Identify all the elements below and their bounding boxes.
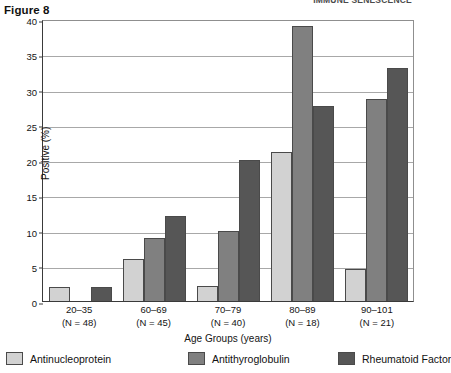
bar-groups — [43, 21, 413, 301]
x-axis-group-label: 70–79(N = 40) — [191, 303, 265, 329]
bar-group — [339, 21, 413, 301]
y-axis-tick-label: 5 — [32, 262, 43, 273]
x-axis-group-label: 20–35(N = 48) — [42, 303, 116, 329]
x-axis-sample-size: (N = 40) — [191, 316, 265, 329]
bar — [292, 26, 313, 301]
legend-label: Antithyroglobulin — [212, 353, 290, 365]
x-axis-title: Age Groups (years) — [42, 333, 414, 344]
x-axis-labels: 20–35(N = 48)60–69(N = 45)70–79(N = 40)8… — [42, 303, 414, 329]
legend-swatch — [6, 352, 23, 365]
bar — [197, 286, 218, 302]
legend-swatch — [338, 352, 355, 365]
bar — [239, 160, 260, 301]
x-axis-sample-size: (N = 18) — [265, 316, 339, 329]
plot-area: 0510152025303540 — [42, 20, 414, 302]
x-axis-range: 90–101 — [340, 303, 414, 316]
x-axis-group-label: 80–89(N = 18) — [265, 303, 339, 329]
x-axis-sample-size: (N = 21) — [340, 316, 414, 329]
x-axis-range: 80–89 — [265, 303, 339, 316]
legend: AntinucleoproteinAntithyroglobulinRheuma… — [6, 352, 418, 365]
bar-group — [265, 21, 339, 301]
legend-item: Antinucleoprotein — [6, 352, 188, 365]
bar — [271, 152, 292, 301]
bar — [123, 259, 144, 301]
legend-item: Antithyroglobulin — [188, 352, 338, 365]
figure-label: Figure 8 — [4, 4, 50, 16]
legend-swatch — [188, 352, 205, 365]
legend-item: Rheumatoid Factor — [338, 352, 418, 365]
x-axis-sample-size: (N = 48) — [42, 316, 116, 329]
bar — [144, 238, 165, 301]
chart-area: 0510152025303540 Positive (%) — [42, 20, 414, 302]
bar — [345, 269, 366, 301]
x-axis-sample-size: (N = 45) — [116, 316, 190, 329]
x-axis-range: 60–69 — [116, 303, 190, 316]
bar — [91, 287, 112, 301]
x-axis-group-label: 60–69(N = 45) — [116, 303, 190, 329]
bar — [387, 68, 408, 301]
legend-label: Antinucleoprotein — [30, 353, 111, 365]
legend-label: Rheumatoid Factor — [362, 353, 451, 365]
bar — [165, 216, 186, 301]
x-axis-group-label: 90–101(N = 21) — [340, 303, 414, 329]
y-axis-tick-label: 10 — [26, 227, 43, 238]
x-axis-range: 20–35 — [42, 303, 116, 316]
bar-group — [191, 21, 265, 301]
y-axis-tick-label: 30 — [26, 86, 43, 97]
bar — [49, 287, 70, 301]
bar — [366, 99, 387, 301]
bar-group — [43, 21, 117, 301]
y-axis-tick-label: 15 — [26, 192, 43, 203]
bar — [218, 231, 239, 302]
y-axis-tick-label: 40 — [26, 16, 43, 27]
x-axis-range: 70–79 — [191, 303, 265, 316]
running-head: IMMUNE SENESCENCE — [313, 0, 412, 9]
bar — [313, 106, 334, 301]
y-axis-title: Positive (%) — [40, 127, 51, 180]
bar-group — [117, 21, 191, 301]
y-axis-tick-label: 35 — [26, 51, 43, 62]
running-head-text: IMMUNE SENESCENCE — [313, 0, 412, 5]
